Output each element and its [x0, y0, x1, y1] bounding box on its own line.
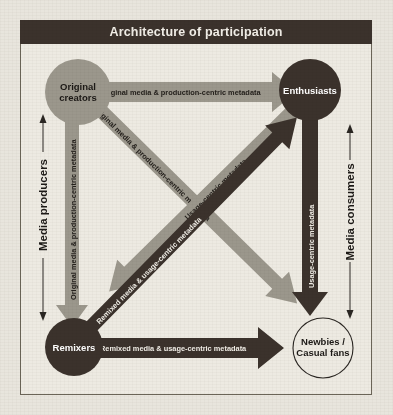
flow-remixers-to-enthusiasts: Remixed media & usage-centric metadata — [76, 106, 309, 342]
flow-label-creators-to-remixers: Original media & production-centric meta… — [69, 139, 78, 300]
flow-creators-to-remixers: Original media & production-centric meta… — [56, 100, 88, 327]
side-label-media-producers: Media producers — [37, 114, 49, 321]
side-label-media-consumers: Media consumers — [344, 124, 356, 319]
flow-creators-to-newbies: Original media & production-centric meta… — [74, 84, 309, 316]
side-label-media-consumers-text: Media consumers — [344, 163, 356, 260]
flow-label-remixers-to-newbies: Remixed media & usage-centric metadata — [100, 344, 247, 353]
flow-enthusiasts-to-newbies: Usage-centric metadata — [292, 100, 328, 316]
diagram-canvas: Architecture of participation Original m… — [0, 0, 393, 415]
node-label-newbies-line2: Casual fans — [296, 347, 349, 358]
node-label-original-creators-line2: creators — [59, 92, 97, 103]
node-remixers[interactable]: Remixers — [45, 318, 103, 376]
flow-label-creators-to-enthusiasts: Original media & production-centric meta… — [100, 88, 261, 97]
flow-remixers-to-newbies: Remixed media & usage-centric metadata — [86, 327, 284, 369]
node-label-original-creators-line1: Original — [60, 81, 96, 92]
diagram-svg: Original media & production-centric meta… — [0, 0, 393, 415]
node-newbies-casual-fans[interactable]: Newbies / Casual fans — [293, 318, 353, 378]
node-label-remixers: Remixers — [53, 342, 96, 353]
node-original-creators[interactable]: Original creators — [45, 59, 111, 125]
flow-enthusiasts-to-remixers: Usage-centric metadata — [97, 86, 318, 304]
flow-label-enthusiasts-to-newbies: Usage-centric metadata — [307, 204, 316, 288]
side-label-media-producers-text: Media producers — [37, 159, 49, 251]
node-enthusiasts[interactable]: Enthusiasts — [279, 59, 341, 121]
node-label-enthusiasts: Enthusiasts — [283, 85, 337, 96]
flow-label-enthusiasts-to-remixers: Usage-centric metadata — [183, 156, 249, 221]
node-label-newbies-line1: Newbies / — [301, 336, 345, 347]
flow-label-remixers-to-enthusiasts: Remixed media & usage-centric metadata — [94, 215, 204, 326]
